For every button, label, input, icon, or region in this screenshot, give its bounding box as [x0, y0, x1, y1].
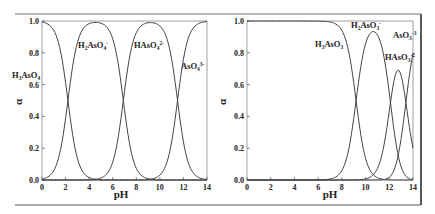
y-tick-label: 0.4 — [234, 112, 244, 121]
x-tick-label: 12 — [385, 183, 393, 192]
x-tick-label: 6 — [316, 183, 320, 192]
figure: 0.00.20.40.60.81.0 02468101214 pH α H3As… — [0, 0, 435, 214]
x-tick-label: 14 — [409, 183, 417, 192]
left-chart: 0.00.20.40.60.81.0 02468101214 pH α H3As… — [12, 17, 211, 200]
label-haso4: HAsO42- — [134, 40, 164, 51]
y-tick-label: 0.0 — [29, 176, 39, 185]
species-curve-H2AsO4- — [42, 22, 207, 180]
x-tick-label: 8 — [340, 183, 344, 192]
x-tick-label: 10 — [362, 183, 370, 192]
y-tick-label: 1.0 — [234, 17, 244, 26]
x-axis-label: pH — [114, 188, 129, 200]
y-tick-label: 0.8 — [29, 49, 39, 58]
y-axis-label: α — [216, 98, 228, 105]
species-curve-AsO4-3- — [42, 22, 207, 181]
label-h2aso3: H2AsO3- — [351, 20, 381, 31]
y-axis: 0.00.20.40.60.81.0 — [29, 17, 45, 185]
species-curve-H3AsO4 — [42, 22, 207, 180]
x-tick-label: 4 — [292, 183, 296, 192]
y-tick-label: 0.2 — [29, 144, 39, 153]
y-tick-label: 0.2 — [234, 144, 244, 153]
label-aso4: AsO43- — [181, 61, 205, 72]
x-tick-label: 2 — [269, 183, 273, 192]
y-tick-label: 0.0 — [234, 176, 244, 185]
y-tick-label: 0.8 — [234, 49, 244, 58]
right-chart: 0.00.20.40.60.81.0 02468101214 pH α H3As… — [216, 17, 417, 200]
y-axis: 0.00.20.40.60.81.0 — [234, 17, 250, 185]
label-haso3: HAsO3-2 — [385, 52, 415, 63]
x-tick-label: 8 — [134, 183, 138, 192]
y-axis-label: α — [12, 98, 24, 105]
x-tick-label: 14 — [203, 183, 211, 192]
x-axis-label: pH — [323, 188, 338, 200]
species-curve-HAsO4-2- — [42, 23, 207, 180]
plot-area — [42, 21, 207, 180]
x-tick-label: 0 — [245, 183, 249, 192]
label-h2aso4: H2AsO4- — [78, 40, 108, 51]
x-tick-label: 2 — [64, 183, 68, 192]
x-tick-label: 0 — [40, 183, 44, 192]
y-tick-label: 0.6 — [234, 81, 244, 90]
y-tick-label: 0.6 — [29, 81, 39, 90]
x-tick-label: 4 — [87, 183, 91, 192]
y-tick-label: 1.0 — [29, 17, 39, 26]
x-tick-label: 12 — [179, 183, 187, 192]
y-tick-label: 0.4 — [29, 112, 39, 121]
x-tick-label: 10 — [156, 183, 164, 192]
label-h3aso4: H3AsO4 — [12, 70, 40, 81]
label-h3aso3: H3AsO3 — [315, 39, 343, 50]
curves — [42, 22, 207, 181]
